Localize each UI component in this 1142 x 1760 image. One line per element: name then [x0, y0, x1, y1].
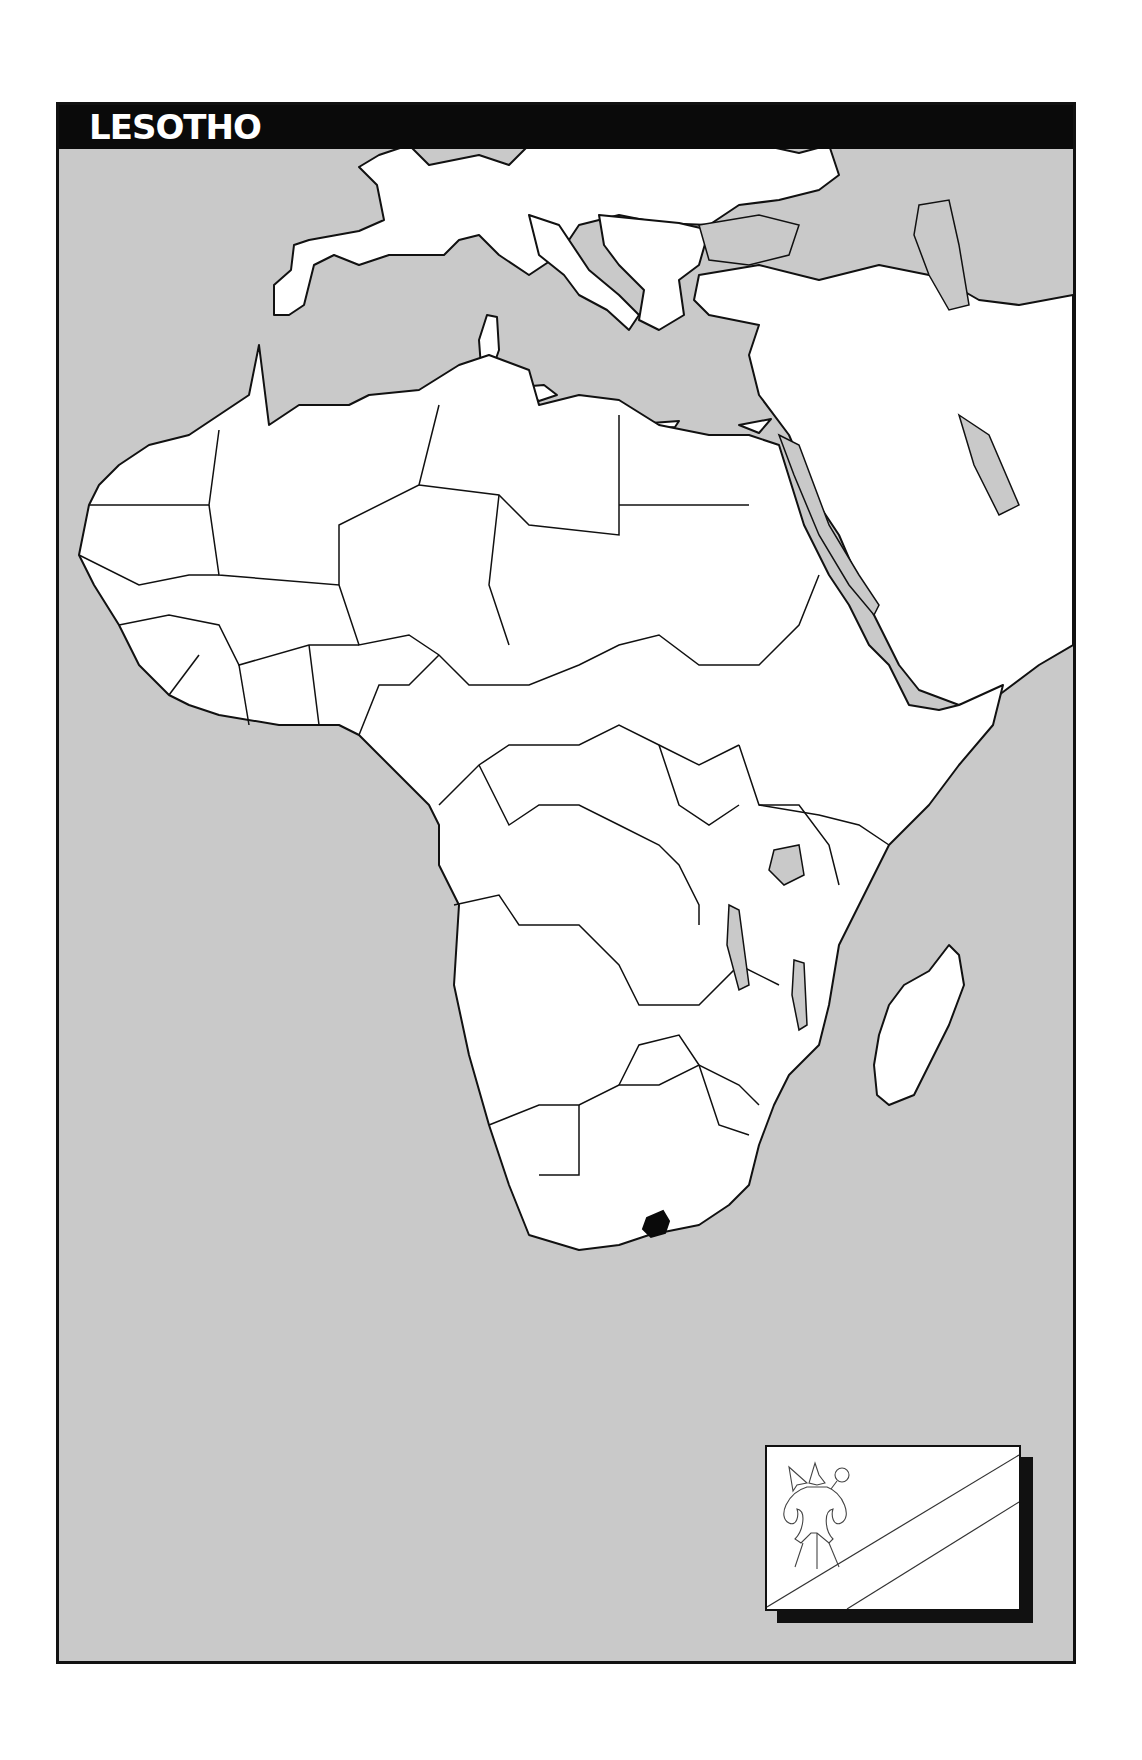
- black-sea: [699, 215, 799, 265]
- flag-inset: [765, 1445, 1021, 1611]
- map-title: LESOTHO: [89, 107, 261, 147]
- title-bar: LESOTHO: [59, 105, 1073, 149]
- flag-artwork: [767, 1447, 1019, 1609]
- cyprus: [739, 419, 771, 433]
- africa-map: [59, 105, 1073, 1661]
- madagascar: [874, 945, 964, 1105]
- map-frame: LESOTHO: [56, 102, 1076, 1664]
- lesotho-flag: [765, 1445, 1021, 1611]
- basotho-emblem-icon: [784, 1463, 849, 1569]
